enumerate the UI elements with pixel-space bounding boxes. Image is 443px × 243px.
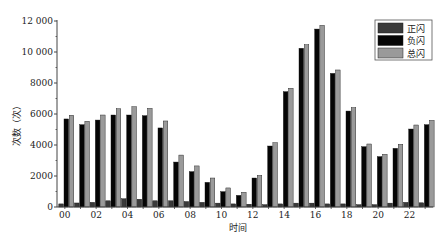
y-tick-label: 6000 <box>30 109 53 119</box>
bar-09-2 <box>210 178 215 207</box>
bar-15-0 <box>294 203 299 207</box>
bar-05-2 <box>148 108 153 207</box>
bar-07-1 <box>174 162 179 207</box>
bar-22-1 <box>409 129 414 207</box>
bar-04-0 <box>121 199 126 207</box>
bar-group-05 <box>137 108 152 207</box>
bar-21-0 <box>388 203 393 207</box>
bar-19-1 <box>362 147 367 207</box>
bar-23-2 <box>430 120 435 207</box>
legend-swatch <box>378 36 403 46</box>
bar-11-2 <box>242 192 247 207</box>
bar-03-0 <box>106 201 111 207</box>
bar-07-0 <box>168 201 173 207</box>
bar-group-20 <box>372 154 387 207</box>
bar-08-1 <box>189 172 194 207</box>
bar-10-2 <box>226 188 231 207</box>
legend-label: 负闪 <box>407 35 425 46</box>
bar-group-01 <box>74 121 89 207</box>
bar-16-1 <box>315 29 320 207</box>
legend: 正闪负闪总闪 <box>375 20 432 60</box>
bar-21-2 <box>398 144 403 207</box>
bar-04-2 <box>132 107 137 207</box>
y-axis: 0200040006000800010 00012 000 <box>22 16 58 212</box>
legend-swatch <box>378 48 403 58</box>
x-tick-label: 18 <box>341 210 353 220</box>
bar-06-1 <box>158 128 163 207</box>
bar-06-0 <box>153 201 158 207</box>
bar-group-02 <box>90 115 105 207</box>
bar-group-14 <box>278 88 293 207</box>
bar-group-04 <box>121 107 136 207</box>
bar-group-03 <box>106 109 121 207</box>
bar-group-22 <box>403 125 418 207</box>
bar-group-10 <box>215 188 230 207</box>
bar-group-09 <box>200 178 215 207</box>
legend-swatch <box>378 23 403 33</box>
bar-01-1 <box>80 125 85 207</box>
bar-group-19 <box>356 144 371 207</box>
bar-07-2 <box>179 155 184 207</box>
bar-15-2 <box>304 45 309 207</box>
bar-10-1 <box>221 192 226 207</box>
bar-group-07 <box>168 155 183 207</box>
bar-01-0 <box>74 203 79 207</box>
bar-12-1 <box>252 178 257 207</box>
bar-group-11 <box>231 192 246 207</box>
bar-17-2 <box>336 70 341 207</box>
bar-group-00 <box>59 115 74 207</box>
bar-02-2 <box>101 115 106 207</box>
bar-group-23 <box>419 120 434 207</box>
bar-05-1 <box>142 116 147 207</box>
bar-22-0 <box>403 202 408 207</box>
y-tick-label: 8000 <box>30 78 53 88</box>
bar-14-2 <box>289 88 294 207</box>
bar-02-0 <box>90 202 95 207</box>
x-tick-label: 12 <box>247 210 258 220</box>
bar-group-21 <box>388 144 403 207</box>
bar-group-17 <box>325 70 340 207</box>
x-tick-label: 22 <box>404 210 415 220</box>
x-tick-label: 10 <box>216 210 228 220</box>
bar-12-2 <box>257 175 262 207</box>
bar-10-0 <box>215 203 220 207</box>
bar-group-15 <box>294 45 309 207</box>
bar-21-1 <box>393 148 398 207</box>
bar-06-2 <box>163 121 168 207</box>
x-tick-label: 14 <box>278 210 290 220</box>
bar-17-1 <box>330 73 335 207</box>
bar-00-2 <box>69 115 74 207</box>
bar-group-18 <box>341 108 356 207</box>
x-tick-label: 16 <box>310 210 322 220</box>
x-tick-label: 06 <box>153 210 165 220</box>
x-axis: 000204060810121416182022 <box>57 207 433 220</box>
bar-03-2 <box>116 109 121 207</box>
bar-11-1 <box>236 195 241 207</box>
bar-08-0 <box>184 202 189 207</box>
bar-group-12 <box>247 175 262 207</box>
bar-08-2 <box>195 166 200 207</box>
bar-00-1 <box>64 119 69 207</box>
bar-16-0 <box>309 203 314 207</box>
bar-22-2 <box>414 125 419 207</box>
bar-09-0 <box>200 202 205 207</box>
bar-16-2 <box>320 25 325 207</box>
x-axis-title: 时间 <box>229 222 247 233</box>
y-axis-title: 次数（次） <box>11 101 22 146</box>
bar-group-08 <box>184 166 199 207</box>
bar-group-13 <box>262 143 277 207</box>
bar-chart: 0200040006000800010 00012 000 0002040608… <box>0 0 443 243</box>
bar-23-1 <box>424 125 429 207</box>
bar-18-2 <box>351 108 356 207</box>
x-tick-label: 08 <box>184 210 196 220</box>
bar-05-0 <box>137 199 142 207</box>
x-tick-label: 04 <box>122 210 134 220</box>
bar-02-1 <box>95 120 100 207</box>
bar-13-2 <box>273 143 278 207</box>
y-tick-label: 0 <box>47 202 53 212</box>
bar-03-1 <box>111 115 116 207</box>
y-tick-label: 2000 <box>30 171 53 181</box>
bar-13-1 <box>268 146 273 207</box>
x-tick-label: 02 <box>90 210 101 220</box>
bar-15-1 <box>299 48 304 207</box>
